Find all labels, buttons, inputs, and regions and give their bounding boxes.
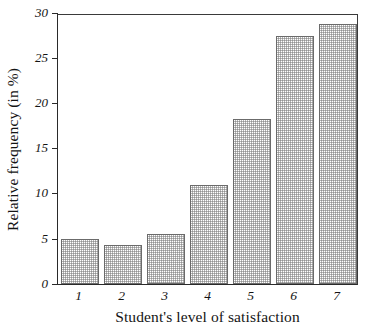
x-axis-tick-label: 5: [229, 288, 272, 304]
y-axis-tick-label: 30: [35, 5, 48, 21]
y-axis-tick: 5: [52, 239, 58, 240]
x-axis-tick-label: 4: [186, 288, 229, 304]
y-axis-tick-label: 20: [35, 95, 48, 111]
y-axis-tick-label: 25: [35, 50, 48, 66]
x-axis-tick-label: 7: [315, 288, 358, 304]
y-axis-tick: 10: [52, 193, 58, 194]
y-axis-tick-label: 10: [35, 185, 48, 201]
y-axis-tick-label: 5: [42, 231, 49, 247]
y-axis-tick: 25: [52, 58, 58, 59]
bar: [61, 239, 99, 284]
bar: [319, 24, 357, 284]
y-axis-tick-label: 0: [42, 276, 49, 292]
plot-area: 051015202530: [57, 14, 358, 285]
x-axis-title: Student's level of satisfaction: [57, 308, 358, 326]
y-axis-tick: 0: [52, 284, 58, 285]
bar: [276, 36, 314, 284]
x-axis-tick-label: 1: [57, 288, 100, 304]
y-axis-title: Relative frequency (in %): [2, 14, 24, 285]
bars-container: [58, 15, 357, 284]
bar: [233, 119, 271, 284]
bar: [104, 245, 142, 284]
bar: [147, 234, 185, 284]
x-axis-tick-label: 3: [143, 288, 186, 304]
bar: [190, 185, 228, 284]
bar-chart-figure: Relative frequency (in %) 051015202530 S…: [0, 0, 371, 333]
x-axis-tick-label: 2: [100, 288, 143, 304]
y-axis-tick-label: 15: [35, 140, 48, 156]
y-axis-tick: 15: [52, 148, 58, 149]
y-axis-tick: 20: [52, 103, 58, 104]
x-axis-tick-label: 6: [272, 288, 315, 304]
y-axis-tick: 30: [52, 13, 58, 14]
